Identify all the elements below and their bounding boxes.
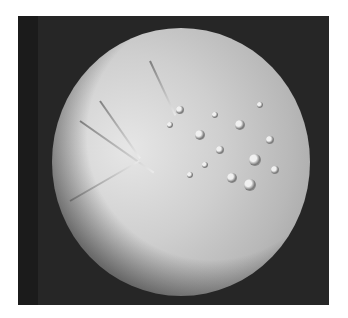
- crater: [249, 154, 261, 166]
- crater: [187, 172, 193, 178]
- crater: [235, 120, 245, 130]
- crater: [195, 130, 205, 140]
- crater: [176, 106, 184, 114]
- crater: [244, 179, 256, 191]
- crater: [271, 166, 279, 174]
- image-frame: [18, 16, 329, 305]
- crater: [257, 102, 263, 108]
- crater: [167, 122, 173, 128]
- dark-edge-strip: [18, 16, 38, 305]
- crater: [266, 136, 274, 144]
- crater: [212, 112, 218, 118]
- crater: [227, 173, 237, 183]
- moon-disk: [52, 28, 310, 296]
- crater: [202, 162, 208, 168]
- crater: [216, 146, 224, 154]
